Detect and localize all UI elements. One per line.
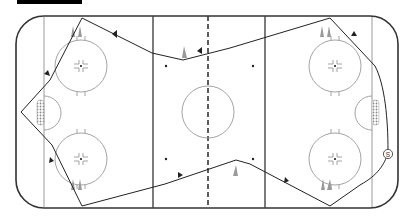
net-right: [372, 100, 379, 125]
goal-crease-right: [355, 96, 372, 130]
faceoff-circle-top-left: [55, 36, 107, 96]
rink-boards: [16, 16, 398, 208]
cone-icon: [321, 179, 325, 190]
skater-marker: S: [383, 149, 392, 158]
faceoff-circle-top-right: [309, 36, 361, 96]
cone-icon: [327, 26, 331, 37]
neutral-zone-dots: [165, 65, 254, 160]
hockey-rink-diagram: S: [0, 0, 415, 219]
arrow-icon: [351, 31, 357, 36]
cone-icon: [78, 26, 82, 37]
goal-crease-left: [44, 96, 61, 130]
net-left: [37, 100, 44, 125]
arrow-icon: [197, 47, 202, 54]
faceoff-circle-bottom-right: [309, 129, 361, 189]
arrow-icon: [49, 157, 54, 163]
skater-label: S: [386, 151, 391, 158]
cone-icon: [233, 165, 238, 176]
cone-icon: [320, 26, 324, 37]
skating-path: [21, 18, 388, 206]
cone-icon: [182, 46, 187, 58]
arrow-icon: [112, 30, 117, 38]
path-arrows: [44, 30, 357, 183]
arrow-icon: [44, 70, 50, 76]
arrow-icon: [284, 177, 289, 183]
faceoff-circle-bottom-left: [55, 129, 107, 189]
arrow-icon: [178, 172, 183, 178]
